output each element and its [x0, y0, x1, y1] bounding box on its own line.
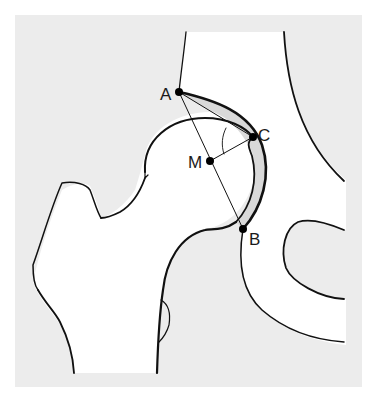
point-B	[239, 225, 247, 233]
label-A: A	[160, 85, 172, 104]
label-C: C	[258, 126, 270, 145]
point-C	[249, 133, 257, 141]
hip-joint-diagram: A C M B	[0, 0, 371, 400]
point-A	[175, 88, 183, 96]
label-M: M	[188, 153, 202, 172]
point-M	[206, 157, 214, 165]
label-B: B	[249, 230, 260, 249]
